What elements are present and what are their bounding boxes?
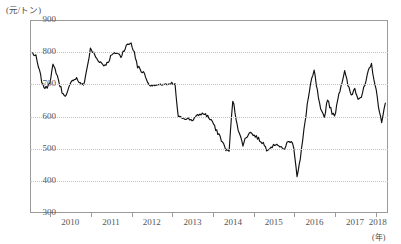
x-tick-2017 [335, 213, 336, 217]
gridline-800 [30, 52, 388, 53]
x-tick-2014 [213, 213, 214, 217]
x-tick-2011 [91, 213, 92, 217]
x-tick-label: 2014 [213, 218, 253, 227]
x-tick-2016 [294, 213, 295, 217]
price-series-line [33, 43, 386, 177]
gridline-700 [30, 84, 388, 85]
y-tick-label: 800 [30, 47, 56, 56]
y-tick-label: 300 [30, 208, 56, 217]
gridline-500 [30, 149, 388, 150]
x-tick-label: 2011 [91, 218, 131, 227]
y-tick-label: 400 [30, 176, 56, 185]
y-axis-unit-label: (元/トン) [6, 3, 41, 15]
y-tick-label: 600 [30, 112, 56, 121]
x-tick-2015 [254, 213, 255, 217]
series-svg [31, 21, 389, 214]
y-tick-label: 900 [30, 15, 56, 24]
x-tick-label: 2018 [358, 218, 398, 227]
x-tick-2010 [50, 213, 51, 217]
price-line-chart: (元/トン) 900800700600500400300 20102011201… [0, 0, 401, 244]
y-tick-label: 500 [30, 144, 56, 153]
x-tick-label: 2010 [50, 218, 90, 227]
x-tick-2012 [132, 213, 133, 217]
x-tick-label: 2016 [294, 218, 334, 227]
x-tick-label: 2015 [254, 218, 294, 227]
y-tick-label: 700 [30, 79, 56, 88]
x-tick-label: 2013 [172, 218, 212, 227]
x-tick-2013 [172, 213, 173, 217]
x-axis-unit-label: (年) [372, 231, 385, 242]
gridline-600 [30, 117, 388, 118]
gridline-400 [30, 181, 388, 182]
x-tick-label: 2012 [132, 218, 172, 227]
